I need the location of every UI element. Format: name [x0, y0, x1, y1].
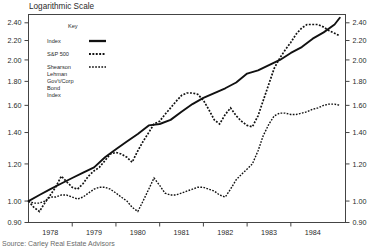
y-tick-label-right: 0.90	[353, 218, 367, 227]
legend-entry-label: Gov't/Corp	[47, 78, 74, 84]
y-tick-label-left: 1.80	[8, 77, 22, 86]
legend-entry-label: Bond	[47, 85, 60, 91]
y-tick-label-right: 2.20	[353, 36, 367, 45]
y-tick-label-right: 1.80	[353, 77, 367, 86]
y-tick-label-right: 1.00	[353, 197, 367, 206]
chart-svg: Logarithmic Scale 2.402.202.001.801.601.…	[0, 0, 377, 248]
y-tick-label-left: 2.20	[8, 36, 22, 45]
legend-heading: Key	[68, 23, 78, 29]
y-tick-label-right: 2.00	[353, 56, 367, 65]
x-tick-label: 1982	[217, 228, 233, 237]
y-axis-right: 2.402.202.001.801.601.401.201.000.90	[346, 18, 367, 227]
legend-entry-label: Lehman	[47, 71, 67, 77]
y-tick-label-right: 2.40	[353, 18, 367, 27]
chart-title: Logarithmic Scale	[29, 2, 95, 11]
y-tick-label-left: 1.20	[8, 160, 22, 169]
x-tick-label: 1984	[305, 228, 321, 237]
x-tick-label: 1979	[86, 228, 102, 237]
series-line	[29, 104, 340, 211]
legend-entry-label: Index	[47, 38, 61, 44]
x-tick-label: 1983	[261, 228, 277, 237]
series-lines	[29, 18, 340, 212]
legend-entry-label: Shearson	[47, 64, 71, 70]
y-tick-label-left: 1.60	[8, 101, 22, 110]
x-axis: 1978197919801981198219831984	[42, 223, 320, 238]
y-axis-left: 2.402.202.001.801.601.401.201.000.90	[8, 18, 29, 227]
y-tick-label-right: 1.40	[353, 128, 367, 137]
x-tick-label: 1981	[174, 228, 190, 237]
legend-entry-label: Index	[47, 92, 61, 98]
y-tick-label-left: 1.00	[8, 197, 22, 206]
y-tick-label-left: 1.40	[8, 128, 22, 137]
y-tick-label-right: 1.60	[353, 101, 367, 110]
series-line	[29, 18, 340, 201]
chart-container: Logarithmic Scale 2.402.202.001.801.601.…	[0, 0, 377, 248]
y-tick-label-right: 1.20	[353, 160, 367, 169]
chart-legend: Key IndexS&P 500ShearsonLehmanGov't/Corp…	[47, 23, 106, 98]
y-tick-label-left: 2.00	[8, 56, 22, 65]
x-tick-label: 1980	[130, 228, 146, 237]
legend-entry-label: S&P 500	[47, 51, 69, 57]
y-tick-label-left: 0.90	[8, 218, 22, 227]
y-tick-label-left: 2.40	[8, 18, 22, 27]
x-tick-label: 1978	[42, 228, 58, 237]
source-note: Source: Carley Real Estate Advisors	[2, 240, 115, 248]
